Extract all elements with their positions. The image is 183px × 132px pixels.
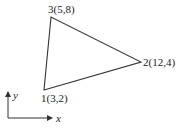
node-1-label: 1(3,2) (41, 92, 68, 105)
y-axis-label: y (12, 89, 18, 101)
node-2-label: 2(12,4) (143, 56, 175, 69)
triangle-diagram: 3(5,8) 2(12,4) 1(3,2) y x (0, 0, 183, 132)
triangle-edges (44, 17, 141, 90)
x-axis-label: x (55, 112, 61, 124)
node-3-label: 3(5,8) (48, 3, 75, 16)
